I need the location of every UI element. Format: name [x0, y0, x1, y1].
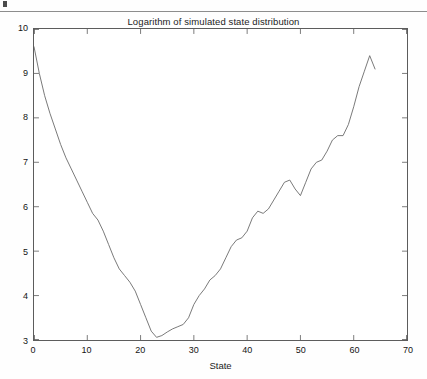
x-tick-label: 60	[339, 345, 369, 355]
y-tick-label: 4	[4, 291, 28, 301]
plot-svg	[34, 29, 407, 340]
page-top-rule	[0, 11, 427, 12]
x-tick-label: 20	[125, 345, 155, 355]
x-axis-title: State	[33, 360, 408, 371]
data-line-series-0	[34, 47, 375, 338]
x-tick-label: 10	[72, 345, 102, 355]
x-tick-label: 50	[286, 345, 316, 355]
chart-title: Logarithm of simulated state distributio…	[0, 16, 427, 27]
x-axis-tick-labels: 010203040506070	[33, 345, 408, 359]
x-tick-label: 40	[232, 345, 262, 355]
x-tick-label: 70	[393, 345, 423, 355]
x-tick-label: 30	[179, 345, 209, 355]
y-axis-tick-labels: 345678910	[0, 28, 28, 341]
y-tick-label: 8	[4, 112, 28, 122]
y-tick-label: 10	[4, 23, 28, 33]
plot-area	[33, 28, 408, 341]
chart-figure: Logarithm of simulated state distributio…	[0, 14, 427, 379]
page-corner-mark	[3, 1, 7, 7]
y-tick-label: 7	[4, 157, 28, 167]
y-tick-label: 9	[4, 68, 28, 78]
y-tick-label: 5	[4, 247, 28, 257]
axis-tick-marks	[34, 29, 407, 340]
x-tick-label: 0	[18, 345, 48, 355]
y-tick-label: 6	[4, 202, 28, 212]
scanned-page: Logarithm of simulated state distributio…	[0, 0, 427, 379]
